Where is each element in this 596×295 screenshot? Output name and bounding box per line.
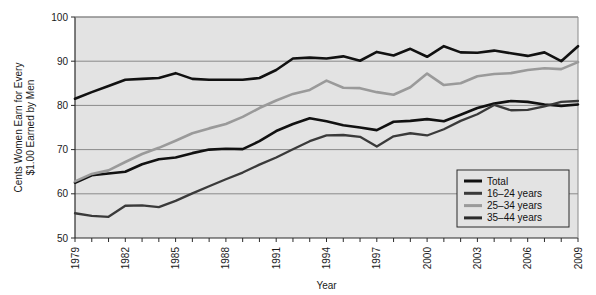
y-tick-label-60: 60	[57, 188, 69, 199]
y-tick-label-80: 80	[57, 100, 69, 111]
x-tick-label-1979: 1979	[70, 247, 81, 270]
legend-label-2: 25–34 years	[487, 200, 542, 211]
x-tick-label-2003: 2003	[472, 247, 483, 270]
y-tick-label-100: 100	[51, 12, 68, 23]
x-tick-label-1985: 1985	[170, 247, 181, 270]
y-axis-title-line1: Cents Women Earn for Every	[13, 63, 24, 193]
y-tick-label-70: 70	[57, 144, 69, 155]
x-tick-label-1988: 1988	[220, 247, 231, 270]
legend-label-3: 35–44 years	[487, 212, 542, 223]
x-tick-label-2000: 2000	[422, 247, 433, 270]
x-tick-label-2009: 2009	[573, 247, 584, 270]
y-tick-label-50: 50	[57, 233, 69, 244]
x-axis-title: Year	[316, 280, 337, 291]
x-tick-label-1994: 1994	[321, 247, 332, 270]
x-tick-label-1991: 1991	[271, 247, 282, 270]
y-axis-title-line2: $1.00 Earned by Men	[25, 80, 36, 176]
line-chart: 5060708090100197919821985198819911994199…	[0, 0, 596, 295]
legend-label-1: 16–24 years	[487, 188, 542, 199]
chart-container: 5060708090100197919821985198819911994199…	[0, 0, 596, 295]
legend-label-0: Total	[487, 176, 508, 187]
x-tick-label-1982: 1982	[120, 247, 131, 270]
y-tick-label-90: 90	[57, 56, 69, 67]
x-tick-label-1997: 1997	[371, 247, 382, 270]
x-tick-label-2006: 2006	[522, 247, 533, 270]
